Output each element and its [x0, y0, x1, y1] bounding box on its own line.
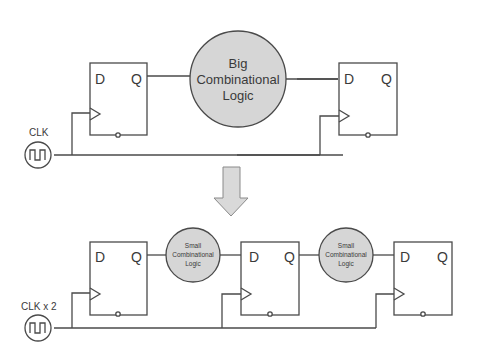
big-logic-label-2: Combinational	[196, 72, 279, 87]
top-ff-left-q-label: Q	[131, 71, 142, 87]
bottom-clock-branch-2	[222, 294, 241, 328]
top-clock-branch-right	[320, 116, 339, 155]
top-ff-right-q-label: Q	[381, 71, 392, 87]
bottom-ff-2-q-label: Q	[284, 249, 295, 265]
small-logic-2-label-3: Logic	[338, 260, 354, 268]
top-ff-right-d-label: D	[344, 71, 354, 87]
bottom-clock-branch-3	[376, 294, 394, 328]
small-logic-2-label-2: Combinational	[325, 251, 367, 258]
top-clock-source	[25, 142, 51, 168]
bottom-ff-2-d-label: D	[249, 249, 259, 265]
top-ff-left-qbar-bubble	[116, 133, 120, 137]
bottom-clock-source	[25, 315, 51, 341]
big-logic-label-3: Logic	[222, 88, 254, 103]
small-logic-1-label-1: Small	[185, 242, 202, 249]
bottom-clock-label: CLK x 2	[21, 301, 57, 312]
bottom-ff-2-qbar-bubble	[268, 312, 272, 316]
bottom-ff-3-q-label: Q	[437, 249, 448, 265]
bottom-clock-branch-1	[72, 293, 90, 328]
bottom-ff-1-d-label: D	[95, 249, 105, 265]
top-clock-label: CLK	[29, 127, 49, 138]
small-logic-1-label-2: Combinational	[172, 251, 214, 258]
top-ff-left-d-label: D	[95, 71, 105, 87]
top-ff-right-qbar-bubble	[366, 133, 370, 137]
bottom-ff-1-q-label: Q	[131, 249, 142, 265]
big-logic-label-1: Big	[229, 56, 248, 71]
bottom-ff-3-d-label: D	[400, 249, 410, 265]
small-logic-1-label-3: Logic	[185, 260, 201, 268]
top-clock-branch-left	[72, 113, 90, 155]
small-logic-2-label-1: Small	[338, 242, 355, 249]
bottom-ff-1-qbar-bubble	[116, 312, 120, 316]
down-arrow-icon	[214, 167, 248, 216]
pipelining-diagram: CLK D Q Big Combinational Logic D Q CLK …	[0, 0, 477, 356]
bottom-ff-3-qbar-bubble	[421, 312, 425, 316]
